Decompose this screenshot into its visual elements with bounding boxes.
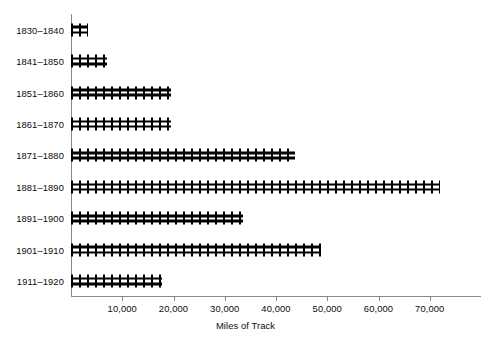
rail-bottom [71,94,171,97]
chart-row: 1881–1890 [71,171,481,202]
bar-railroad-track [71,243,321,256]
x-axis-tick [327,296,328,301]
chart-row: 1841–1850 [71,45,481,76]
rail-top [71,277,162,280]
category-label: 1830–1840 [16,24,64,35]
x-axis-tick-label: 70,000 [415,303,444,314]
x-axis-title: Miles of Track [0,320,491,331]
category-label: 1851–1860 [16,87,64,98]
category-label: 1891–1900 [16,213,64,224]
category-label: 1901–1910 [16,244,64,255]
rail-top [71,57,107,60]
rail-bottom [71,220,243,223]
rail-top [71,246,321,249]
plot-area: 1830–18401841–18501851–18601861–18701871… [71,14,481,297]
rail-top [71,214,243,217]
rail-bottom [71,125,171,128]
chart-row: 1861–1870 [71,108,481,139]
chart-row: 1830–1840 [71,14,481,45]
category-label: 1911–1920 [17,276,64,287]
chart-row: 1911–1920 [71,266,481,297]
x-axis-tick-label: 50,000 [313,303,342,314]
x-axis-tick [174,296,175,301]
bar-railroad-track [71,23,88,36]
rail-bottom [71,31,88,34]
bar-railroad-track [71,275,162,288]
category-label: 1841–1850 [16,56,64,67]
chart-row: 1901–1910 [71,234,481,265]
category-label: 1871–1880 [16,150,64,161]
x-axis-tick [430,296,431,301]
x-axis-tick-label: 30,000 [210,303,239,314]
rail-top [71,120,171,123]
x-axis-tick [122,296,123,301]
rail-bottom [71,62,107,65]
bar-railroad-track [71,86,171,99]
x-axis-tick-label: 10,000 [108,303,137,314]
rail-top [71,183,440,186]
bar-railroad-track [71,149,295,162]
chart-row: 1851–1860 [71,77,481,108]
bar-railroad-track [71,55,107,68]
rail-top [71,89,171,92]
x-axis-tick [276,296,277,301]
chart-row: 1871–1880 [71,140,481,171]
chart-row: 1891–1900 [71,203,481,234]
x-axis-tick [379,296,380,301]
rail-top [71,152,295,155]
rail-bottom [71,251,321,254]
rail-bottom [71,188,440,191]
category-label: 1861–1870 [16,119,64,130]
category-label: 1881–1890 [16,181,64,192]
x-axis-tick-label: 60,000 [364,303,393,314]
bar-railroad-track [71,180,440,193]
x-axis-tick-label: 20,000 [159,303,188,314]
railroad-track-bar-chart: 1830–18401841–18501851–18601861–18701871… [0,0,491,342]
bar-railroad-track [71,118,171,131]
rail-top [71,26,88,29]
x-axis-tick-label: 40,000 [261,303,290,314]
rail-bottom [71,283,162,286]
bar-railroad-track [71,212,243,225]
rail-bottom [71,157,295,160]
x-axis-tick [225,296,226,301]
